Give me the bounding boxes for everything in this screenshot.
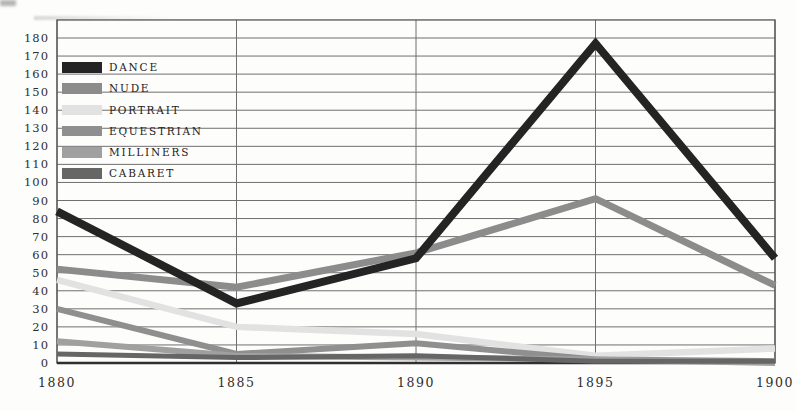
y-tick-label: 150 [24, 85, 49, 99]
legend-label: PORTRAIT [109, 105, 180, 116]
y-tick-label: 90 [32, 194, 49, 208]
y-axis-tick-labels: 0102030405060708090100110120130140150160… [24, 31, 49, 370]
legend-swatch-icon [62, 126, 102, 137]
y-tick-label: 160 [24, 67, 49, 81]
y-tick-label: 10 [32, 338, 49, 352]
y-tick-label: 40 [32, 284, 49, 298]
y-tick-label: 130 [24, 121, 49, 135]
legend-label: NUDE [109, 83, 150, 94]
y-tick-label: 70 [32, 230, 49, 244]
x-axis-tick-labels: 18801885189018951900 [38, 375, 794, 390]
legend-label: DANCE [109, 62, 159, 73]
x-tick-label: 1890 [397, 375, 435, 390]
y-tick-label: 20 [32, 320, 49, 334]
y-tick-label: 50 [32, 266, 49, 280]
y-tick-label: 180 [24, 31, 49, 45]
legend-swatch-icon [62, 168, 102, 179]
y-tick-label: 140 [24, 103, 49, 117]
y-tick-label: 110 [24, 157, 49, 171]
legend-label: MILLINERS [109, 147, 190, 158]
y-tick-label: 120 [24, 139, 49, 153]
x-tick-label: 1895 [577, 375, 615, 390]
y-tick-label: 80 [32, 212, 49, 226]
y-tick-label: 170 [24, 49, 49, 63]
legend-item: CABARET [62, 168, 203, 179]
y-tick-label: 100 [24, 175, 49, 189]
x-tick-label: 1900 [756, 375, 794, 390]
legend-item: PORTRAIT [62, 105, 203, 116]
legend-label: EQUESTRIAN [109, 126, 203, 137]
y-tick-label: 30 [32, 302, 49, 316]
legend-item: MILLINERS [62, 147, 203, 158]
x-tick-label: 1885 [218, 375, 256, 390]
legend-label: CABARET [109, 168, 175, 179]
x-tick-label: 1880 [38, 375, 76, 390]
y-tick-label: 60 [32, 248, 49, 262]
legend-item: EQUESTRIAN [62, 126, 203, 137]
legend-swatch-icon [62, 105, 102, 116]
chart-legend: DANCE NUDE PORTRAIT EQUESTRIAN MILLINERS… [62, 62, 203, 179]
line-chart: 0102030405060708090100110120130140150160… [0, 0, 796, 411]
y-tick-label: 0 [41, 356, 49, 370]
legend-item: NUDE [62, 83, 203, 94]
legend-swatch-icon [62, 62, 102, 73]
legend-item: DANCE [62, 62, 203, 73]
legend-swatch-icon [62, 147, 102, 158]
legend-swatch-icon [62, 83, 102, 94]
